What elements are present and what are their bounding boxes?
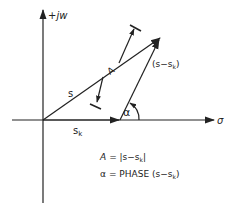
alpha-label: α: [123, 106, 130, 119]
jw-axis-label: +jw: [48, 10, 68, 21]
s-minus-sk-label: (s−sk): [152, 59, 179, 70]
magnitude-equation: A= |s−sk|: [99, 152, 146, 163]
s-label: s: [68, 88, 73, 99]
phase-equation: α= PHASE (s−sk): [100, 169, 179, 180]
s-plane-diagram: +jw σ sk s (s−sk) A α A= |s−sk| α= PHASE…: [0, 0, 233, 203]
equations: A= |s−sk| α= PHASE (s−sk): [99, 152, 179, 180]
sigma-axis-label: σ: [217, 115, 224, 126]
s-vector: s: [43, 38, 160, 120]
sk-vector: sk: [43, 120, 119, 138]
sk-label: sk: [73, 125, 83, 138]
magnitude-dimension: A: [90, 25, 141, 109]
angle-alpha: α: [123, 103, 139, 120]
vertical-axis: +jw: [43, 10, 68, 203]
